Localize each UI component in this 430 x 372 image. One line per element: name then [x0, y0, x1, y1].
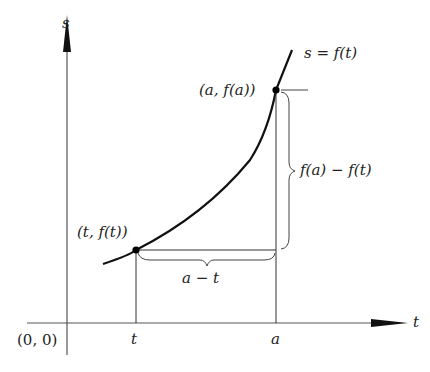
point-t-label: (t, f(t)) [77, 225, 128, 240]
point-a-label: (a, f(a)) [199, 83, 255, 98]
point-t-marker [132, 246, 139, 253]
run-label: a − t [182, 271, 219, 286]
rise-label: f(a) − f(t) [300, 163, 372, 178]
diagram-canvas [0, 0, 430, 372]
origin-label: (0, 0) [17, 333, 57, 348]
tick-label-t: t [131, 332, 137, 347]
s-axis-label: s [62, 16, 70, 31]
point-a-marker [272, 86, 279, 93]
tick-label-a: a [271, 332, 280, 347]
horizontal-brace [138, 253, 275, 266]
t-axis-label: t [413, 315, 419, 330]
vertical-brace [281, 92, 295, 249]
curve-label: s = f(t) [304, 46, 357, 61]
curve-f [103, 50, 292, 264]
t-axis-arrow-icon [371, 319, 408, 327]
secant-slope-diagram: s t (0, 0) s = f(t) (a, f(a)) (t, f(t)) … [0, 0, 430, 372]
